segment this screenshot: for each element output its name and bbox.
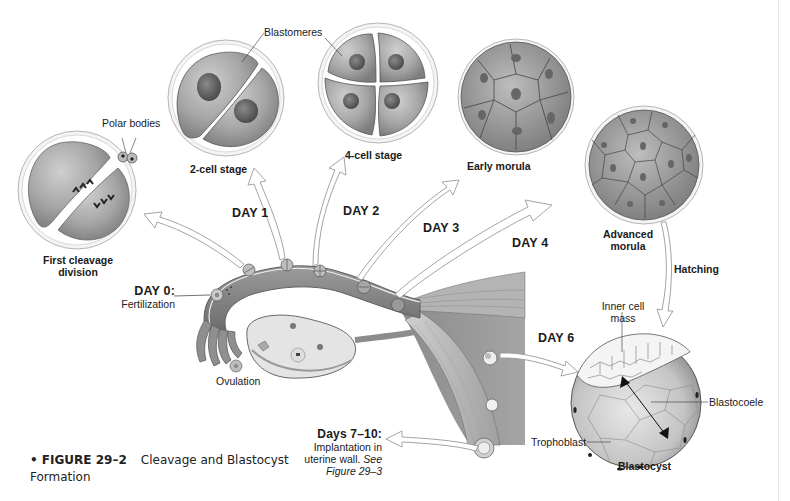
figure-caption: • FIGURE 29–2Cleavage and Blastocyst For… [30, 452, 290, 486]
implantation-line2: uterine wall. See [290, 453, 382, 465]
blastocoele-label: Blastocoele [709, 396, 763, 408]
day-2-label: DAY 2 [343, 204, 379, 218]
first-cleavage-cell [18, 131, 137, 249]
day-0-block: DAY 0: Fertilization [100, 284, 175, 310]
first-cleavage-label-line1: First cleavage [18, 254, 138, 266]
hatching-label: Hatching [674, 263, 719, 275]
early-morula [458, 39, 574, 155]
diagram-illustration [0, 0, 790, 501]
fertilization-label: Fertilization [100, 298, 175, 310]
figure-number: • FIGURE 29–2 [30, 453, 127, 467]
inner-cell-mass-line2: mass [596, 312, 650, 324]
advanced-morula-label-line1: Advanced [598, 228, 658, 240]
figure-title: Cleavage and Blastocyst [141, 453, 289, 467]
day-6-label: DAY 6 [538, 331, 574, 345]
two-cell-embryo [168, 40, 284, 156]
four-cell-embryo [318, 23, 438, 143]
advanced-morula-label: Advanced morula [598, 228, 658, 252]
inner-cell-mass-line1: Inner cell [596, 300, 650, 312]
figure-title-cont: Formation [30, 470, 91, 484]
figure-reference-link[interactable]: Figure 29–3 [290, 465, 382, 477]
two-cell-stage-label: 2-cell stage [190, 163, 247, 175]
ovary-illustration [230, 315, 415, 378]
page-edge-divider [778, 0, 779, 501]
implantation-line2-text: uterine wall. [304, 453, 360, 465]
inner-cell-mass-label: Inner cell mass [596, 300, 650, 324]
first-cleavage-label: First cleavage division [18, 254, 138, 278]
early-morula-label: Early morula [467, 160, 531, 172]
blastomeres-label: Blastomeres [264, 26, 322, 38]
day-3-label: DAY 3 [423, 221, 459, 235]
advanced-morula [585, 106, 703, 224]
trophoblast-label: Trophoblast [531, 436, 586, 448]
ovulation-label: Ovulation [216, 375, 260, 387]
first-cleavage-label-line2: division [18, 266, 138, 278]
days-7-10-block: Days 7–10: Implantation in uterine wall.… [290, 427, 382, 477]
advanced-morula-label-line2: morula [598, 240, 658, 252]
blastocyst-label: Blastocyst [618, 460, 671, 472]
blastocyst [571, 312, 708, 471]
polar-bodies-label: Polar bodies [102, 117, 160, 129]
day-0-label: DAY 0: [100, 284, 175, 298]
days-7-10-label: Days 7–10: [290, 427, 382, 441]
see-text: See [363, 453, 382, 465]
four-cell-stage-label: 4-cell stage [345, 149, 402, 161]
day-1-label: DAY 1 [232, 206, 268, 220]
figure-canvas: Polar bodies First cleavage division Bla… [0, 0, 790, 501]
day-4-label: DAY 4 [512, 236, 548, 250]
implantation-line1: Implantation in [290, 441, 382, 453]
